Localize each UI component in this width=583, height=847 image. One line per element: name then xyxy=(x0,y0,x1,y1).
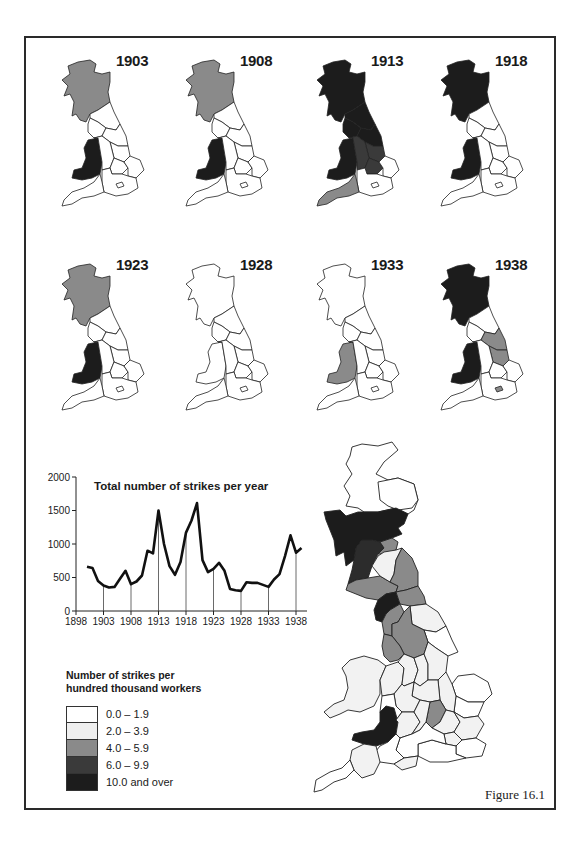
x-tick-label: 1938 xyxy=(285,616,308,627)
legend-item: 10.0 and over xyxy=(66,774,266,791)
small-map-1913: 1913 xyxy=(313,58,433,238)
small-map-1928: 1928 xyxy=(182,262,302,442)
legend-item: 4.0 – 5.9 xyxy=(66,740,266,757)
legend-items: 0.0 – 1.92.0 – 3.94.0 – 5.96.0 – 9.910.0… xyxy=(66,706,201,796)
legend-swatch xyxy=(66,706,98,723)
region-wales xyxy=(327,138,357,180)
y-tick-label: 1500 xyxy=(48,505,71,516)
legend-swatch xyxy=(66,740,98,757)
region-east_anglia xyxy=(248,360,268,382)
small-map-1933: 1933 xyxy=(313,262,433,442)
small-map-1908: 1908 xyxy=(182,58,302,238)
map-year-label: 1938 xyxy=(495,256,527,273)
region-wales xyxy=(72,342,102,384)
x-tick-label: 1908 xyxy=(120,616,143,627)
region-wales xyxy=(327,342,357,384)
region-east_anglia xyxy=(124,360,144,382)
region-kent xyxy=(456,738,486,758)
map-year-label: 1908 xyxy=(240,52,272,69)
map-year-label: 1923 xyxy=(116,256,148,273)
region-east_anglia xyxy=(503,360,523,382)
legend-label: 10.0 and over xyxy=(106,776,173,788)
x-tick-label: 1928 xyxy=(230,616,253,627)
legend-item: 6.0 – 9.9 xyxy=(66,757,266,774)
figure-label: Figure 16.1 xyxy=(485,787,545,803)
small-map-1938: 1938 xyxy=(437,262,557,442)
region-wales xyxy=(451,138,481,180)
region-wales xyxy=(196,342,226,384)
x-tick-label: 1903 xyxy=(92,616,115,627)
legend-item: 2.0 – 3.9 xyxy=(66,723,266,740)
legend-title-line1: Number of strikes per xyxy=(66,669,201,682)
legend-title-line2: hundred thousand workers xyxy=(66,682,201,695)
x-tick-label: 1918 xyxy=(175,616,198,627)
y-tick-label: 2000 xyxy=(48,472,71,483)
x-tick-label: 1913 xyxy=(147,616,170,627)
region-east_anglia xyxy=(379,360,399,382)
y-tick-label: 500 xyxy=(53,572,70,583)
x-tick-label: 1933 xyxy=(257,616,280,627)
legend-item: 0.0 – 1.9 xyxy=(66,706,266,723)
region-east_anglia xyxy=(124,156,144,178)
x-tick-label: 1898 xyxy=(65,616,88,627)
legend-label: 6.0 – 9.9 xyxy=(106,759,149,771)
small-map-1923: 1923 xyxy=(58,262,178,442)
legend-label: 0.0 – 1.9 xyxy=(106,708,149,720)
region-wales xyxy=(72,138,102,180)
map-year-label: 1928 xyxy=(240,256,272,273)
region-wales xyxy=(196,138,226,180)
map-year-label: 1918 xyxy=(495,52,527,69)
legend: Number of strikes per hundred thousand w… xyxy=(66,669,201,796)
small-map-1903: 1903 xyxy=(58,58,178,238)
region-north-wales xyxy=(324,656,386,718)
region-east_anglia xyxy=(503,156,523,178)
detailed-county-map xyxy=(310,440,560,810)
strikes-line-chart: 0500100015002000189819031908191319181923… xyxy=(40,470,320,630)
region-devon xyxy=(350,744,380,778)
region-wales xyxy=(451,342,481,384)
legend-label: 2.0 – 3.9 xyxy=(106,725,149,737)
chart-series-line xyxy=(87,503,302,591)
map-year-label: 1933 xyxy=(371,256,403,273)
chart-title: Total number of strikes per year xyxy=(94,480,268,492)
legend-swatch xyxy=(66,774,98,791)
legend-swatch xyxy=(66,757,98,774)
map-year-label: 1903 xyxy=(116,52,148,69)
legend-label: 4.0 – 5.9 xyxy=(106,742,149,754)
y-tick-label: 0 xyxy=(64,606,70,617)
small-map-1918: 1918 xyxy=(437,58,557,238)
y-tick-label: 1000 xyxy=(48,539,71,550)
x-tick-label: 1923 xyxy=(202,616,225,627)
region-east_anglia xyxy=(379,156,399,178)
legend-swatch xyxy=(66,723,98,740)
map-year-label: 1913 xyxy=(371,52,403,69)
region-east_anglia xyxy=(248,156,268,178)
region-cornwall xyxy=(314,760,354,792)
